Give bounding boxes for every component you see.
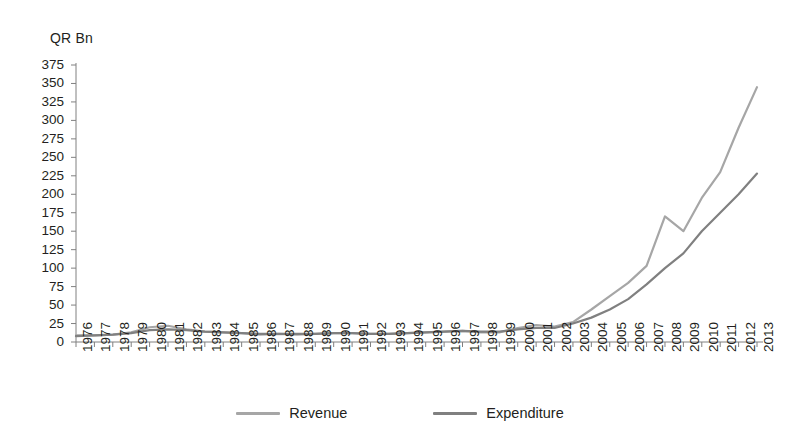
x-axis-tick-2008: 2008	[670, 322, 684, 352]
x-axis-tick-1996: 1996	[449, 322, 463, 352]
y-axis-tick-100: 100	[24, 261, 64, 275]
series-group	[76, 87, 757, 336]
x-axis-tick-2006: 2006	[633, 322, 647, 352]
x-axis-tick-2005: 2005	[615, 322, 629, 352]
x-axis-tick-1981: 1981	[173, 322, 187, 352]
x-axis-tick-2004: 2004	[596, 322, 610, 352]
x-axis-tick-1985: 1985	[247, 322, 261, 352]
x-axis-tick-2003: 2003	[578, 322, 592, 352]
y-axis-tick-350: 350	[24, 76, 64, 90]
legend-label-expenditure: Expenditure	[486, 405, 563, 421]
x-axis-tick-1988: 1988	[302, 322, 316, 352]
x-axis-tick-1999: 1999	[504, 322, 518, 352]
line-chart: QR Bn 0255075100125150175200225250275300…	[0, 0, 800, 440]
plot-area	[0, 0, 800, 440]
chart-legend: RevenueExpenditure	[0, 398, 800, 428]
x-axis-tick-1986: 1986	[265, 322, 279, 352]
x-axis-tick-2010: 2010	[707, 322, 721, 352]
x-axis-tick-2009: 2009	[688, 322, 702, 352]
legend-item-revenue[interactable]: Revenue	[236, 405, 347, 421]
x-axis-tick-1977: 1977	[99, 322, 113, 352]
y-axis-tick-150: 150	[24, 224, 64, 238]
x-axis-tick-1980: 1980	[155, 322, 169, 352]
series-line-expenditure	[76, 174, 757, 337]
x-axis-tick-1991: 1991	[357, 322, 371, 352]
x-axis-tick-2001: 2001	[541, 322, 555, 352]
y-axis-tick-125: 125	[24, 243, 64, 257]
x-axis-tick-1995: 1995	[431, 322, 445, 352]
x-axis-tick-1990: 1990	[339, 322, 353, 352]
y-axis-tick-300: 300	[24, 113, 64, 127]
x-axis-tick-1987: 1987	[283, 322, 297, 352]
y-axis-tick-325: 325	[24, 95, 64, 109]
x-axis-tick-1989: 1989	[320, 322, 334, 352]
x-axis-tick-1983: 1983	[210, 322, 224, 352]
x-axis-tick-1984: 1984	[228, 322, 242, 352]
legend-swatch-expenditure	[433, 412, 477, 415]
y-axis-tick-25: 25	[24, 317, 64, 331]
legend-swatch-revenue	[236, 412, 280, 415]
y-axis-tick-75: 75	[24, 280, 64, 294]
x-axis-tick-1997: 1997	[468, 322, 482, 352]
x-axis-tick-2007: 2007	[652, 322, 666, 352]
x-axis-tick-1998: 1998	[486, 322, 500, 352]
x-axis-tick-2013: 2013	[762, 322, 776, 352]
x-axis-tick-1982: 1982	[191, 322, 205, 352]
y-axis-tick-0: 0	[24, 335, 64, 349]
y-axis-tick-200: 200	[24, 187, 64, 201]
legend-label-revenue: Revenue	[289, 405, 347, 421]
y-axis-tick-50: 50	[24, 298, 64, 312]
x-axis-tick-1992: 1992	[375, 322, 389, 352]
axis-group	[71, 63, 763, 347]
y-axis-tick-175: 175	[24, 206, 64, 220]
x-axis-tick-2000: 2000	[523, 322, 537, 352]
series-line-revenue	[76, 87, 757, 335]
x-axis-tick-1994: 1994	[412, 322, 426, 352]
x-axis-tick-1976: 1976	[81, 322, 95, 352]
y-axis-tick-375: 375	[24, 58, 64, 72]
x-axis-tick-2002: 2002	[560, 322, 574, 352]
x-axis-tick-1978: 1978	[118, 322, 132, 352]
y-axis-tick-225: 225	[24, 169, 64, 183]
legend-item-expenditure[interactable]: Expenditure	[433, 405, 563, 421]
y-axis-tick-250: 250	[24, 150, 64, 164]
x-axis-tick-1993: 1993	[394, 322, 408, 352]
x-axis-tick-2011: 2011	[725, 323, 739, 352]
x-axis-tick-1979: 1979	[136, 322, 150, 352]
y-axis-tick-275: 275	[24, 132, 64, 146]
x-axis-tick-2012: 2012	[744, 322, 758, 352]
